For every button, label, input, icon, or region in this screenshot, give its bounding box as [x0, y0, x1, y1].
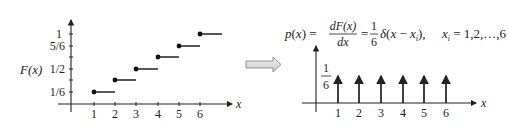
xtick-label: 5	[421, 106, 427, 120]
xtick-label: 4	[155, 107, 161, 121]
frac-num: dF(x)	[330, 19, 357, 33]
xtick-label: 2	[112, 107, 118, 121]
xtick-label: 6	[197, 107, 203, 121]
ytick-label: 5/6	[50, 39, 65, 53]
xtick-label: 2	[356, 106, 362, 120]
equals-sign: =	[361, 26, 368, 41]
xtick-label: 4	[400, 106, 406, 120]
ytick-label: 1/2	[50, 62, 65, 76]
impulses	[338, 76, 446, 103]
pdf-formula: p(x) = dF(x) dx = 1 6 δ(x − xi), xi = 1,…	[284, 19, 507, 49]
xtick-label: 6	[443, 106, 449, 120]
impulse-weight-num: 1	[323, 61, 329, 75]
svg-text:δ(x − xi),: δ(x − xi),	[380, 26, 426, 43]
impulse-weight-den: 6	[323, 78, 329, 92]
cdf-plot: F(x) 1/6 1/2 5/6 1 1 2 3 4 5 6 x	[19, 20, 242, 121]
pdf-xlabel: x	[480, 96, 487, 110]
frac-den: dx	[337, 35, 349, 49]
pdf-plot: p(x) = dF(x) dx = 1 6 δ(x − xi), xi = 1,…	[284, 19, 507, 120]
frac-den: 6	[371, 35, 377, 49]
cdf-steps	[92, 32, 222, 93]
svg-text:p(x) =: p(x) =	[284, 26, 317, 41]
diagram-canvas: F(x) 1/6 1/2 5/6 1 1 2 3 4 5 6 x p(x) = …	[0, 0, 509, 125]
xtick-label: 1	[91, 107, 97, 121]
right-arrow-icon	[246, 57, 281, 72]
ytick-label: 1/6	[50, 85, 65, 99]
xtick-label: 5	[176, 107, 182, 121]
xtick-label: 3	[133, 107, 139, 121]
svg-text:xi = 1,2,…,6: xi = 1,2,…,6	[441, 26, 507, 43]
ytick-label: 1	[56, 27, 62, 41]
frac-num: 1	[371, 19, 377, 33]
cdf-xlabel: x	[235, 97, 242, 111]
xtick-label: 3	[378, 106, 384, 120]
cdf-ylabel: F(x)	[19, 62, 42, 77]
xtick-label: 1	[335, 106, 341, 120]
